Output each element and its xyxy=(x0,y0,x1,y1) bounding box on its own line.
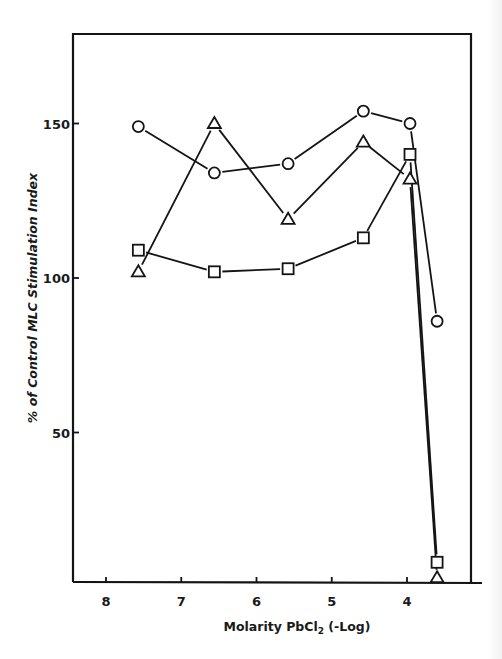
triangle-marker-icon xyxy=(282,213,295,224)
x-tick-label: 4 xyxy=(402,594,411,609)
circle-marker-icon xyxy=(133,121,144,132)
triangle-series-segment xyxy=(294,148,358,214)
triangle-marker-icon xyxy=(357,136,370,147)
triangle-series-segment xyxy=(370,147,404,174)
x-tick-label: 6 xyxy=(252,594,261,609)
x-axis-title: Molarity PbCl2 (-Log) xyxy=(224,619,371,636)
y-tick-label: 150 xyxy=(43,117,70,132)
square-marker-icon xyxy=(209,266,220,277)
y-tick-label: 100 xyxy=(43,271,70,286)
square-marker-icon xyxy=(133,245,144,256)
x-axis-line xyxy=(73,582,482,583)
circle-series-segment xyxy=(145,131,207,169)
x-tick-label: 7 xyxy=(177,594,186,609)
plot-border xyxy=(73,34,471,582)
square-marker-icon xyxy=(283,263,294,274)
circle-marker-icon xyxy=(405,118,416,129)
x-tick-label: 8 xyxy=(101,594,110,609)
square-marker-icon xyxy=(432,557,443,568)
triangle-marker-icon xyxy=(208,117,221,128)
square-marker-icon xyxy=(358,232,369,243)
square-series-segment xyxy=(146,252,207,269)
circle-series-segment xyxy=(295,116,357,159)
square-series-segment xyxy=(222,269,280,271)
triangle-series-segment xyxy=(411,187,437,570)
circle-marker-icon xyxy=(358,106,369,117)
line-chart: 87654 50100150 Molarity PbCl2 (-Log) % o… xyxy=(0,0,502,659)
x-tick-label: 5 xyxy=(327,594,336,609)
square-series-segment xyxy=(296,241,356,266)
y-tick-label: 50 xyxy=(52,426,70,441)
triangle-marker-icon xyxy=(132,265,145,276)
series-lines xyxy=(142,113,437,570)
square-series-segment xyxy=(367,161,406,230)
circle-marker-icon xyxy=(209,167,220,178)
square-marker-icon xyxy=(405,149,416,160)
triangle-marker-icon xyxy=(431,571,444,582)
y-axis-title: % of Control MLC Stimulation Index xyxy=(25,172,40,423)
circle-marker-icon xyxy=(432,316,443,327)
triangle-marker-icon xyxy=(404,173,417,184)
circle-series-segment xyxy=(371,113,402,121)
circle-marker-icon xyxy=(283,158,294,169)
